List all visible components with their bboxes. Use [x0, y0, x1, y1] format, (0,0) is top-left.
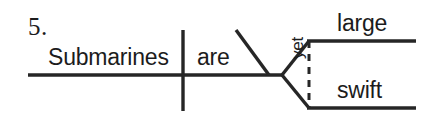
sentence-diagram-canvas: 5. Submarines are yet large swift: [0, 0, 447, 132]
predicate-adjective-label-1: large: [337, 12, 387, 35]
conjunction-label: yet: [289, 37, 306, 59]
fork-lower-branch-line: [282, 75, 309, 108]
predicate-adjective-label-2: swift: [337, 79, 382, 102]
verb-label: are: [197, 46, 230, 69]
subject-label: Submarines: [48, 46, 169, 69]
predicate-adjective-slant-line: [236, 30, 269, 75]
